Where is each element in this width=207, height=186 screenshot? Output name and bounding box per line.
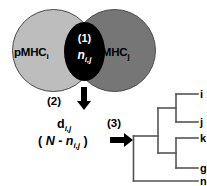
venn-label-left: pMHCi (14, 46, 48, 58)
dendro-leaf-label-i: i (200, 88, 203, 100)
venn-diagram: pMHCi pMHCj (1) ni,j (0, 0, 165, 100)
distance-symbol: di,j (57, 117, 71, 131)
dendro-leaf-label-j: j (200, 116, 203, 128)
step3-label: (3) (107, 117, 121, 129)
dendro-leaf-label-g: g (200, 162, 207, 174)
distance-symbol-text: d (57, 117, 65, 131)
expression-close-paren: ) (80, 134, 88, 148)
expression-N: N (46, 134, 55, 148)
expression-minus: - (55, 134, 66, 148)
step2-label: (2) (47, 95, 61, 107)
dendro-leaf-label-k: k (200, 132, 206, 144)
dendro-leaf-label-n: n (200, 175, 207, 186)
overlap-variable-symbol: n (77, 48, 84, 62)
down-arrow-head (77, 101, 91, 110)
expression-open-paren: ( (38, 134, 46, 148)
overlap-step-label: (1) (64, 32, 105, 44)
overlap-variable: ni,j (64, 48, 105, 62)
distance-symbol-subscript: i,j (65, 124, 72, 133)
figure-canvas: pMHCi pMHCj (1) ni,j (2) di,j ( N - ni,j… (0, 0, 207, 186)
dendrogram-tree (130, 88, 207, 186)
expression-n-subscript: i,j (73, 141, 80, 150)
overlap-variable-subscript: i,j (85, 55, 92, 64)
venn-label-left-text: pMHC (14, 46, 46, 58)
distance-expression: ( N - ni,j ) (38, 134, 88, 148)
dendrogram: i j k g n (130, 88, 207, 186)
